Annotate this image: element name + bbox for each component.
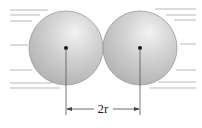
dimension-label: 2r (98, 101, 110, 116)
two-spheres-diagram: 2r (0, 0, 202, 128)
